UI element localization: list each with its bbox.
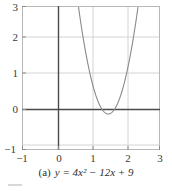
caption-equation: y = 4x² − 12x + 9 <box>55 166 134 178</box>
xtick-label-1: 1 <box>85 153 101 164</box>
xtick-label-minus-1: −1 <box>14 153 30 164</box>
ytick-label-0: 0 <box>2 104 18 115</box>
figure-panel: 3 2 1 0 −1 −1 0 1 2 3 (a)y = 4x² − 12x +… <box>0 0 172 191</box>
caption-tag: (a) <box>39 166 51 178</box>
xtick-label-0: 0 <box>51 153 67 164</box>
plot-svg <box>22 6 160 150</box>
xtick-label-2: 2 <box>120 153 136 164</box>
ytick-label-2: 2 <box>2 32 18 43</box>
ytick-label-1: 1 <box>2 68 18 79</box>
plot-area: 3 2 1 0 −1 −1 0 1 2 3 <box>22 6 160 150</box>
page-artifact-mark <box>8 184 22 186</box>
figure-caption: (a)y = 4x² − 12x + 9 <box>0 166 172 178</box>
xtick-label-3: 3 <box>152 153 168 164</box>
ytick-label-3: 3 <box>2 2 18 13</box>
